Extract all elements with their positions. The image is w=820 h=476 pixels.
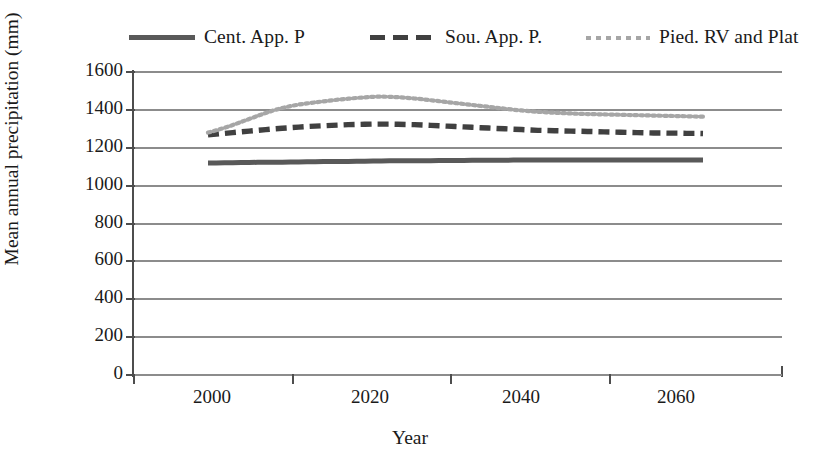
x-axis-title: Year: [0, 427, 820, 449]
y-axis-tick-label: 0: [61, 362, 123, 384]
y-axis-tick-label: 600: [61, 248, 123, 270]
x-axis-tick: [292, 374, 294, 384]
legend-item-sou-app-p: Sou. App. P.: [370, 22, 542, 52]
legend-label-pied-rv-and-plat: Pied. RV and Plat: [659, 22, 799, 52]
x-axis-tick-label: 2000: [177, 386, 247, 408]
data-series-layer: [133, 72, 782, 375]
x-axis-tick: [450, 374, 452, 384]
chart-container: Cent. App. P Sou. App. P. Pied. RV and P…: [0, 0, 820, 476]
y-axis-tick-label: 1000: [61, 173, 123, 195]
y-axis-tick-label: 1400: [61, 97, 123, 119]
legend-item-pied-rv-and-plat: Pied. RV and Plat: [584, 22, 799, 52]
plot-area: [133, 72, 782, 375]
series-line-cent-app-p: [208, 160, 703, 163]
legend-label-cent-app-p: Cent. App. P: [204, 22, 305, 52]
y-axis-title: Mean annual precipitation (mm): [1, 0, 23, 319]
y-axis-tick-label: 200: [61, 324, 123, 346]
x-axis-tick-label: 2020: [335, 386, 405, 408]
x-axis-tick-label: 2060: [641, 386, 711, 408]
y-axis-tick-label: 800: [61, 211, 123, 233]
legend-label-sou-app-p: Sou. App. P.: [445, 22, 542, 52]
y-axis-tick-label: 1200: [61, 135, 123, 157]
legend-key-solid-line-icon: [129, 22, 195, 52]
x-axis-tick: [609, 374, 611, 384]
legend-item-cent-app-p: Cent. App. P: [129, 22, 305, 52]
x-axis-tick-label: 2040: [486, 386, 556, 408]
legend-key-dashed-line-icon: [370, 22, 436, 52]
chart-legend: Cent. App. P Sou. App. P. Pied. RV and P…: [0, 22, 820, 52]
y-axis-tick-label: 1600: [61, 59, 123, 81]
series-line-sou-app-p: [208, 124, 703, 135]
y-axis-tick-label: 400: [61, 286, 123, 308]
legend-key-dotted-line-icon: [584, 22, 650, 52]
x-axis-tick: [133, 374, 135, 384]
